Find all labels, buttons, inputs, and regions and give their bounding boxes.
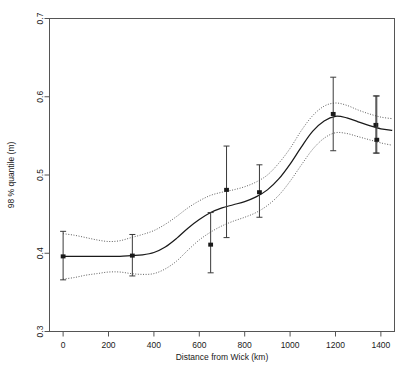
x-tick-label: 400 — [147, 340, 161, 350]
y-axis-tick-labels: 0.30.40.50.60.7 — [35, 12, 45, 337]
data-point-marker — [61, 254, 66, 258]
x-tick-label: 200 — [101, 340, 115, 350]
x-tick-label: 1000 — [281, 340, 300, 350]
upper-confidence-band — [63, 103, 392, 242]
y-tick-label: 0.4 — [35, 247, 45, 259]
y-tick-label: 0.6 — [35, 91, 45, 103]
data-point-marker — [130, 254, 135, 258]
data-point-marker — [257, 190, 262, 194]
x-axis-ticks — [63, 332, 381, 337]
x-tick-label: 1400 — [371, 340, 390, 350]
data-point-with-error-bar — [373, 96, 379, 153]
mean-curve-line — [63, 116, 392, 256]
x-axis-tick-labels: 0200400600800100012001400 — [61, 340, 391, 350]
x-axis-title: Distance from Wick (km) — [176, 352, 269, 362]
data-point-marker — [208, 243, 213, 247]
x-tick-label: 0 — [61, 340, 66, 350]
y-tick-label: 0.5 — [35, 169, 45, 181]
fitted-mean-line — [63, 116, 392, 256]
chart-figure: 0200400600800100012001400 0.30.40.50.60.… — [0, 0, 406, 373]
data-point-with-error-bar — [256, 165, 262, 217]
y-axis-title: 98 % quantile (m) — [6, 142, 16, 209]
plot-frame — [50, 19, 395, 332]
y-tick-label: 0.7 — [35, 12, 45, 24]
x-tick-label: 800 — [238, 340, 252, 350]
quantile-vs-distance-plot: 0200400600800100012001400 0.30.40.50.60.… — [0, 0, 406, 373]
confidence-band-line — [63, 103, 392, 242]
data-point-marker — [374, 138, 379, 142]
data-point-marker — [224, 188, 229, 192]
y-tick-label: 0.3 — [35, 325, 45, 337]
data-point-with-error-bar — [129, 234, 135, 275]
data-point-with-error-bar — [208, 213, 214, 273]
x-tick-label: 600 — [192, 340, 206, 350]
data-points-with-error-bars — [60, 77, 380, 280]
x-tick-label: 1200 — [326, 340, 345, 350]
data-point-with-error-bar — [60, 231, 66, 280]
data-point-with-error-bar — [330, 77, 336, 151]
data-point-with-error-bar — [224, 146, 230, 238]
y-axis-ticks — [45, 19, 50, 332]
data-point-marker — [331, 112, 336, 116]
data-point-marker — [373, 123, 378, 127]
